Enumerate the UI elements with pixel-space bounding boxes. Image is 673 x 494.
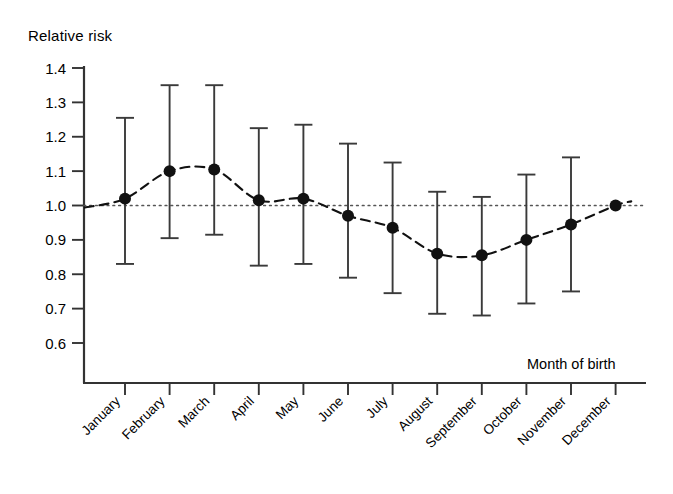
y-axis-label-group: Relative risk bbox=[28, 27, 113, 44]
month-label-march: March bbox=[175, 394, 212, 431]
month-label-july: July bbox=[363, 393, 391, 421]
y-axis-ticks bbox=[72, 68, 84, 343]
x-axis-ticks bbox=[125, 383, 616, 395]
y-tick-label: 0.9 bbox=[45, 231, 66, 248]
data-point-april bbox=[253, 194, 265, 206]
error-bar-january bbox=[116, 118, 134, 264]
y-tick-label: 0.8 bbox=[45, 266, 66, 283]
month-label-january: January bbox=[79, 393, 124, 438]
y-tick-label: 1.4 bbox=[45, 60, 66, 77]
data-point-september bbox=[476, 249, 488, 261]
data-point-june bbox=[342, 210, 354, 222]
chart-canvas: Relative risk 0.60.70.80.91.01.11.21.31.… bbox=[0, 0, 673, 494]
error-bar-march bbox=[205, 85, 223, 235]
fitted-trend-curve bbox=[85, 167, 631, 258]
relative-risk-by-month-of-birth-chart: Relative risk 0.60.70.80.91.01.11.21.31.… bbox=[0, 0, 673, 494]
y-tick-label: 1.2 bbox=[45, 128, 66, 145]
month-label-august: August bbox=[395, 393, 436, 434]
data-point-november bbox=[565, 218, 577, 230]
month-label-october: October bbox=[480, 393, 525, 438]
data-point-july bbox=[387, 222, 399, 234]
error-bars bbox=[116, 85, 580, 315]
y-tick-label: 0.6 bbox=[45, 335, 66, 352]
month-label-may: May bbox=[273, 393, 302, 422]
month-label-december: December bbox=[559, 393, 614, 448]
y-tick-label: 1.0 bbox=[45, 197, 66, 214]
y-tick-label: 1.1 bbox=[45, 163, 66, 180]
data-point-march bbox=[208, 163, 220, 175]
x-axis-title: Month of birth bbox=[527, 356, 616, 372]
data-point-december bbox=[610, 200, 622, 212]
data-point-may bbox=[297, 193, 309, 205]
month-labels: JanuaryFebruaryMarchAprilMayJuneJulyAugu… bbox=[79, 393, 615, 451]
data-point-october bbox=[520, 234, 532, 246]
y-tick-label: 1.3 bbox=[45, 94, 66, 111]
data-points bbox=[119, 163, 622, 261]
month-label-february: February bbox=[119, 393, 168, 442]
data-point-february bbox=[164, 165, 176, 177]
data-point-august bbox=[431, 248, 443, 260]
y-tick-label: 0.7 bbox=[45, 300, 66, 317]
data-point-january bbox=[119, 193, 131, 205]
month-label-june: June bbox=[315, 394, 346, 425]
month-label-april: April bbox=[227, 394, 257, 424]
y-axis-label: Relative risk bbox=[28, 27, 113, 44]
axis-lines bbox=[83, 66, 646, 383]
error-bar-february bbox=[161, 85, 179, 238]
y-tick-labels: 0.60.70.80.91.01.11.21.31.4 bbox=[45, 60, 66, 352]
